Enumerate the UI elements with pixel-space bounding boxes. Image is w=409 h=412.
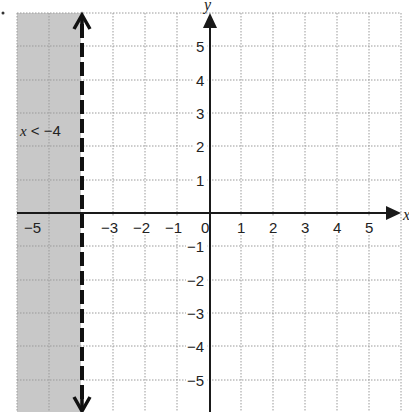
ytick: 4 — [196, 72, 204, 89]
inequality-label: x < −4 — [19, 122, 61, 139]
ytick: 2 — [196, 138, 204, 155]
ytick: −5 — [187, 372, 204, 389]
ytick: 5 — [196, 38, 204, 55]
y-axis-label: y — [202, 0, 212, 14]
x-axis-arrow-icon — [386, 206, 401, 220]
xtick: −5 — [24, 219, 41, 236]
ytick: 1 — [196, 172, 204, 189]
xtick: 1 — [237, 219, 245, 236]
ytick: 3 — [196, 105, 204, 122]
x-axis-label: x — [402, 206, 409, 223]
ytick: −3 — [187, 305, 204, 322]
xtick: 0 — [201, 219, 209, 236]
xtick: 2 — [269, 219, 277, 236]
ytick: −4 — [187, 338, 204, 355]
xtick: 5 — [365, 219, 373, 236]
xtick: −3 — [101, 219, 118, 236]
ytick: −2 — [187, 272, 204, 289]
xtick: −1 — [165, 219, 182, 236]
y-axis-arrow-icon — [203, 13, 217, 28]
xtick: −2 — [133, 219, 150, 236]
stray-dot — [2, 12, 5, 15]
coordinate-plane: y x −5 −3 −2 −1 0 1 2 3 4 5 5 4 3 2 1 −1… — [0, 0, 409, 412]
xtick: 4 — [333, 219, 341, 236]
xtick: 3 — [301, 219, 309, 236]
ytick: −1 — [187, 238, 204, 255]
